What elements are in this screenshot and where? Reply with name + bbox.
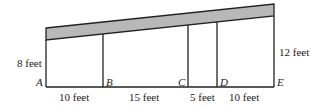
height-left-label: 8 feet — [17, 58, 42, 69]
roof-band — [46, 4, 274, 40]
segment-bc-label: 15 feet — [129, 92, 159, 103]
point-e-label: E — [277, 77, 284, 88]
roof-diagram — [0, 0, 321, 108]
segment-de-label: 10 feet — [229, 92, 259, 103]
point-a-label: A — [36, 77, 43, 88]
height-right-label: 12 feet — [279, 47, 309, 58]
point-d-label: D — [220, 77, 228, 88]
point-c-label: C — [178, 77, 185, 88]
segment-cd-label: 5 feet — [190, 92, 215, 103]
point-b-label: B — [106, 77, 113, 88]
segment-ab-label: 10 feet — [59, 92, 89, 103]
